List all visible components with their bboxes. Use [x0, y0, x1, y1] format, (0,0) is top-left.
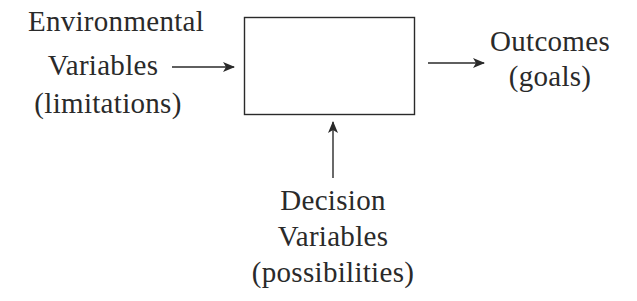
outcomes-label-line2: (goals) — [488, 59, 612, 93]
decision-label-line2: Variables — [233, 219, 433, 253]
decision-label-line1: Decision — [233, 183, 433, 217]
environmental-label-line1: Environmental — [0, 4, 232, 38]
decision-model-diagram: Environmental Variables (limitations) Ou… — [0, 0, 637, 301]
environmental-label-line2: Variables — [38, 48, 168, 82]
process-box — [245, 18, 415, 115]
decision-label-line3: (possibilities) — [233, 255, 433, 289]
environmental-label-line3: (limitations) — [26, 86, 190, 120]
outcomes-label-line1: Outcomes — [488, 24, 612, 58]
